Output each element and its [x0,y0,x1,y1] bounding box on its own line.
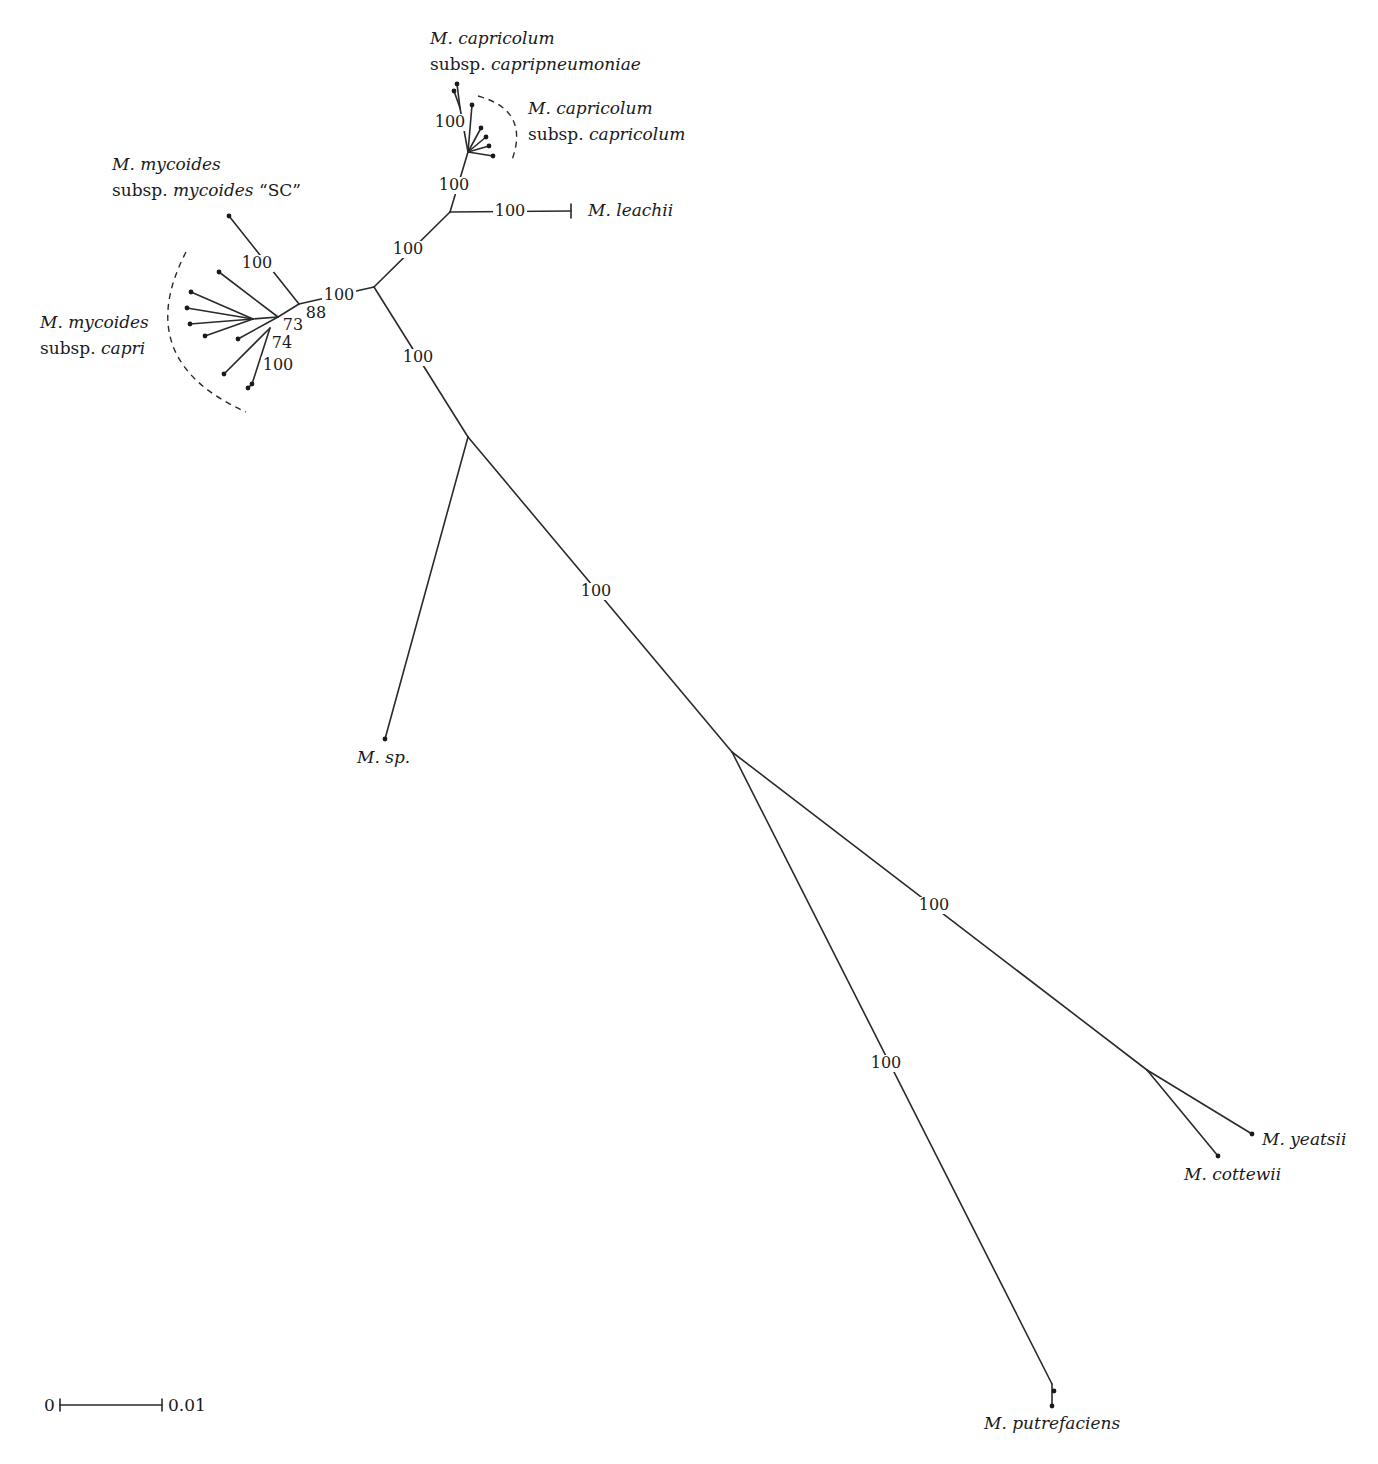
bootstrap-value: 100 [495,201,526,220]
taxon-label-cottewii: M. cottewii [1183,1164,1281,1184]
branch [1147,1070,1218,1156]
branch [187,308,253,319]
tip-node [188,322,193,327]
tip-node [487,144,492,149]
tip-nodes [185,82,1255,1409]
taxon-labels: M. capricolumsubsp. capripneumoniaeM. ca… [39,28,1346,1433]
taxon-label-capricolum: M. capricolum [527,98,653,118]
bootstrap-value: 73 [283,315,303,334]
branch [1147,1070,1252,1134]
bootstrap-value: 74 [272,333,292,352]
taxon-subsp-capricolum: subsp. capricolum [528,124,685,144]
bootstrap-value: 100 [871,1053,902,1072]
scale-bar-right-label: 0.01 [168,1395,206,1415]
taxon-label-leachii: M. leachii [587,200,673,220]
tree-branches [187,84,1252,1406]
tip-node [470,103,475,108]
branch [191,292,253,319]
branch [468,152,493,156]
capricolum-arc [478,96,517,160]
branch [385,437,468,739]
bootstrap-value: 88 [306,303,326,322]
tip-node [484,135,489,140]
bootstrap-value: 100 [439,175,470,194]
tip-node [479,126,484,131]
tip-node [185,306,190,311]
scale-bar: 0 0.01 [44,1395,206,1415]
taxon-subsp-capri: subsp. capri [40,338,145,358]
capri-arc [168,252,246,412]
bootstrap-labels: 100100100100100100887374100100100100100 [240,112,951,1072]
bootstrap-value: 100 [581,581,612,600]
bootstrap-value: 100 [242,253,273,272]
tip-node [1216,1154,1221,1159]
tip-node [227,214,232,219]
tip-node [250,382,255,387]
clade-brackets [168,96,517,412]
taxon-subsp-mycoides_sc: subsp. mycoides “SC” [112,180,301,200]
tip-node [1050,1404,1055,1409]
taxon-subsp-capripneumoniae: subsp. capripneumoniae [430,54,641,74]
bootstrap-value: 100 [393,239,424,258]
taxon-label-capripneumoniae: M. capricolum [429,28,555,48]
tip-node [383,737,388,742]
tip-node [189,290,194,295]
tip-node [246,386,251,391]
taxon-label-yeatsii: M. yeatsii [1261,1129,1346,1149]
tip-node [203,334,208,339]
tip-node [217,270,222,275]
bootstrap-value: 100 [324,285,355,304]
tip-node [1052,1389,1057,1394]
scale-bar-left-label: 0 [44,1395,55,1415]
bootstrap-value: 100 [403,347,434,366]
taxon-label-sp: M. sp. [356,747,410,767]
bootstrap-value: 100 [435,112,466,131]
tip-node [236,337,241,342]
taxon-label-mycoides_sc: M. mycoides [111,154,221,174]
phylogenetic-tree: 100100100100100100887374100100100100100 … [0,0,1378,1464]
tip-node [491,154,496,159]
bootstrap-value: 100 [919,895,950,914]
tip-node [455,82,460,87]
bootstrap-value: 100 [263,355,294,374]
branch [219,272,278,317]
tip-node [222,372,227,377]
taxon-label-capri: M. mycoides [39,312,149,332]
tip-node [1250,1132,1255,1137]
tip-node [452,89,457,94]
taxon-label-putrefaciens: M. putrefaciens [983,1413,1120,1433]
